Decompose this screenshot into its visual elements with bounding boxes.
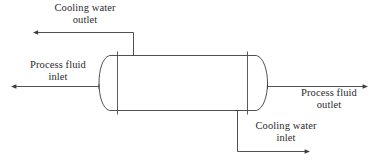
label-process-fluid-inlet: Process fluid inlet	[12, 59, 104, 83]
label-cooling-water-inlet-line1: Cooling water	[255, 120, 316, 131]
cooling-water-outlet-stream	[33, 30, 134, 55]
label-process-fluid-outlet-line2: outlet	[282, 99, 376, 111]
heat-exchanger-diagram: Cooling water outlet Process fluid inlet…	[0, 0, 379, 163]
cooling-water-outlet-arrowhead	[33, 30, 38, 34]
vessel-right-head	[257, 56, 268, 111]
vessel-shell-group	[99, 56, 268, 111]
label-cooling-water-inlet: Cooling water inlet	[236, 120, 336, 144]
label-process-fluid-inlet-line1: Process fluid	[30, 59, 86, 70]
tube-sheet-group	[118, 52, 248, 115]
process-fluid-inlet-arrowhead	[11, 84, 16, 88]
label-cooling-water-inlet-line2: inlet	[236, 132, 336, 144]
process-fluid-inlet-stream	[11, 84, 99, 89]
label-cooling-water-outlet: Cooling water outlet	[36, 2, 134, 26]
label-cooling-water-outlet-line1: Cooling water	[54, 2, 115, 13]
cooling-water-inlet-arrowhead	[305, 149, 310, 153]
label-process-fluid-inlet-line2: inlet	[12, 71, 104, 83]
cooling-water-outlet-pipe	[36, 33, 134, 56]
label-cooling-water-outlet-line2: outlet	[36, 14, 134, 26]
label-process-fluid-outlet-line1: Process fluid	[301, 87, 357, 98]
label-process-fluid-outlet: Process fluid outlet	[282, 87, 376, 111]
